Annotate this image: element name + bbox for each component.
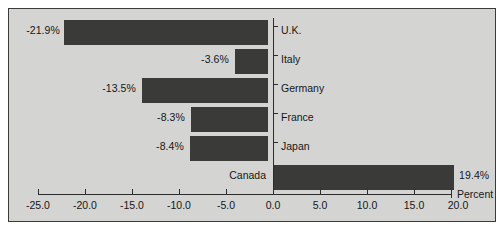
bar-row-germany: -13.5% Germany	[9, 76, 495, 105]
bar-row-japan: -8.4% Japan	[9, 134, 495, 163]
bar-value-germany: -13.5%	[86, 82, 136, 94]
bar-row-uk: -21.9% U.K.	[9, 18, 495, 47]
x-tick-label-5: 5.0	[313, 199, 328, 211]
bar-value-canada: 19.4%	[459, 169, 489, 181]
x-tick-20	[451, 189, 452, 194]
category-label-france: France	[281, 111, 314, 123]
x-tick--25	[38, 189, 39, 194]
x-tick--10	[179, 189, 180, 194]
bar-value-uk: -21.9%	[14, 24, 60, 36]
bar-row-canada: Canada 19.4%	[9, 163, 495, 192]
x-tick-label--25: -25.0	[26, 199, 50, 211]
x-tick-0	[273, 189, 274, 195]
x-tick-label-20: 20.0	[448, 199, 468, 211]
category-label-italy: Italy	[281, 53, 300, 65]
bar-canada[interactable]	[274, 165, 454, 190]
x-tick--20	[85, 189, 86, 194]
bar-uk[interactable]	[64, 20, 268, 45]
x-axis-title: Percent	[457, 188, 493, 200]
x-tick--5	[226, 189, 227, 194]
x-tick-label-15: 15.0	[404, 199, 424, 211]
x-tick-10	[367, 189, 368, 194]
bar-value-italy: -3.6%	[185, 53, 229, 65]
x-tick-label-0: 0.0	[266, 199, 281, 211]
zero-axis-line	[273, 18, 274, 194]
bar-value-japan: -8.4%	[138, 140, 184, 152]
bar-italy[interactable]	[235, 49, 268, 74]
bar-france[interactable]	[191, 107, 268, 132]
bar-japan[interactable]	[190, 136, 268, 161]
category-label-japan: Japan	[281, 140, 310, 152]
bar-value-france: -8.3%	[139, 111, 185, 123]
x-tick-label--10: -10.0	[167, 199, 191, 211]
plot-area: -21.9% U.K. -3.6% Italy -13.5% Germany -…	[9, 9, 495, 221]
category-label-germany: Germany	[281, 82, 324, 94]
bar-row-italy: -3.6% Italy	[9, 47, 495, 76]
x-tick-label--5: -5.0	[217, 199, 235, 211]
x-tick-label--20: -20.0	[73, 199, 97, 211]
x-tick-label-10: 10.0	[357, 199, 377, 211]
x-tick-label--15: -15.0	[120, 199, 144, 211]
x-tick-5	[320, 189, 321, 194]
bar-germany[interactable]	[142, 78, 268, 103]
bar-row-france: -8.3% France	[9, 105, 495, 134]
x-tick-15	[414, 189, 415, 194]
category-label-uk: U.K.	[281, 24, 301, 36]
x-tick--15	[132, 189, 133, 194]
category-label-canada: Canada	[204, 169, 266, 181]
x-axis-line	[38, 194, 451, 195]
chart-figure: -21.9% U.K. -3.6% Italy -13.5% Germany -…	[8, 8, 496, 222]
